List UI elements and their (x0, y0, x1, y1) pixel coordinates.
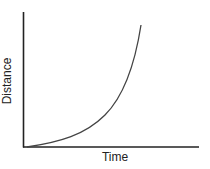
x-axis-label: Time (90, 150, 140, 164)
y-axis-label: Distance (0, 46, 16, 116)
distance-curve (27, 25, 141, 147)
distance-time-chart (0, 0, 210, 169)
